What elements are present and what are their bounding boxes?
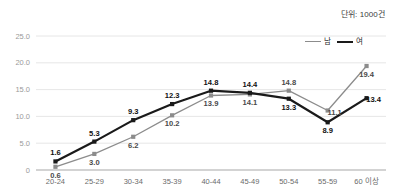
x-tick-label: 25-29	[85, 177, 104, 186]
data-point-marker	[170, 102, 174, 106]
data-label: 14.8	[281, 78, 296, 87]
data-label: 1.6	[50, 148, 61, 157]
y-tick-label: 20.0	[15, 58, 30, 67]
data-point-marker	[170, 113, 174, 117]
y-tick-label: 15.0	[15, 85, 30, 94]
x-tick-label: 40-44	[201, 177, 220, 186]
data-point-marker	[209, 93, 213, 97]
y-tick-label: 0	[26, 166, 30, 175]
data-label: 12.3	[165, 91, 180, 100]
y-tick-label: 25.0	[15, 32, 30, 41]
data-point-marker	[131, 135, 135, 139]
data-point-marker	[364, 64, 368, 68]
data-label: 11.1	[327, 108, 342, 117]
y-axis-tick-labels: 05.010.015.020.025.0	[15, 32, 30, 175]
x-tick-label: 50-54	[279, 177, 298, 186]
data-point-marker	[92, 152, 96, 156]
data-point-marker	[287, 97, 291, 101]
data-point-marker	[92, 139, 96, 143]
data-label: 14.1	[242, 98, 258, 107]
x-tick-label: 45-49	[240, 177, 259, 186]
x-axis-tick-labels: 20-2425-2930-3435-3940-4445-4950-5455-59…	[46, 176, 379, 186]
data-label: 6.2	[128, 141, 139, 150]
x-tick-label: 30-34	[124, 177, 143, 186]
data-label: 13.3	[281, 103, 296, 112]
data-point-labels: 0.63.06.210.213.914.114.811.119.41.65.39…	[50, 70, 382, 180]
data-label: 3.0	[89, 158, 100, 167]
data-label: 8.9	[322, 126, 333, 135]
x-tick-label: 35-39	[163, 177, 182, 186]
data-point-marker	[131, 118, 135, 122]
data-label: 14.8	[204, 78, 219, 87]
data-point-marker	[53, 159, 57, 163]
data-label: 9.3	[128, 107, 139, 116]
data-point-marker	[53, 165, 57, 169]
y-tick-label: 5.0	[20, 139, 30, 148]
data-label: 19.4	[359, 70, 375, 79]
data-label: 13.9	[204, 99, 219, 108]
data-point-marker	[209, 89, 213, 93]
data-point-marker	[248, 91, 252, 95]
x-tick-label: 60 이상	[354, 176, 378, 186]
x-tick-label: 55-59	[318, 177, 337, 186]
data-point-marker	[287, 89, 291, 93]
data-label: 0.6	[50, 171, 61, 180]
y-tick-label: 10.0	[15, 112, 30, 121]
chart-plot: 05.010.015.020.025.0 20-2425-2930-3435-3…	[0, 0, 393, 194]
data-label: 13.4	[366, 95, 382, 104]
data-point-marker	[326, 120, 330, 124]
data-label: 14.4	[242, 80, 258, 89]
data-label: 5.3	[89, 129, 100, 138]
data-label: 10.2	[165, 119, 180, 128]
chart-container: 단위: 1000건 남 여 05.010.015.020.025.0 20-24…	[0, 0, 393, 194]
